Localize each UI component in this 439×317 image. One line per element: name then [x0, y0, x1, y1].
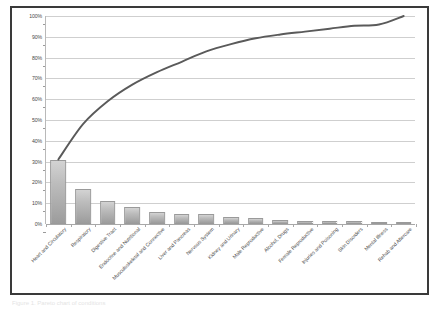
bar[interactable] [100, 201, 116, 224]
y-axis-tick-label: 10% [32, 200, 42, 206]
bar-slot [317, 16, 342, 224]
bar-slot [219, 16, 244, 224]
bar-slot [145, 16, 170, 224]
bar[interactable] [50, 160, 66, 224]
y-axis-tick-label: 100% [29, 13, 42, 19]
x-axis-category-label: Musculoskeletal and Connective [111, 226, 166, 281]
chart-frame: 100%90%80%70%60%50%40%30%20%10%0% Heart … [10, 6, 429, 295]
bar[interactable] [174, 214, 190, 224]
bars-layer [46, 16, 415, 224]
y-axis-tick-label: 50% [32, 117, 42, 123]
bar-slot [95, 16, 120, 224]
bar-slot [71, 16, 96, 224]
x-axis-category-label: Respiratory [69, 226, 91, 248]
y-axis-tick-label: 70% [32, 75, 42, 81]
y-axis-tick-label: 30% [32, 159, 42, 165]
y-axis-tick-label: 60% [32, 96, 42, 102]
x-axis-category-label: Heart and Circulatory [30, 226, 68, 264]
bar-slot [367, 16, 392, 224]
y-axis-tick-label: 40% [32, 138, 42, 144]
bar[interactable] [198, 214, 214, 224]
figure-caption: Figure 1. Pareto chart of conditions [12, 300, 312, 314]
bar-slot [120, 16, 145, 224]
bar-slot [342, 16, 367, 224]
plot-area [45, 16, 415, 224]
y-axis-tick-label: 0% [35, 221, 42, 227]
y-axis-tick-label: 20% [32, 179, 42, 185]
y-axis: 100%90%80%70%60%50%40%30%20%10%0% [12, 16, 42, 224]
bar-slot [293, 16, 318, 224]
y-axis-tick-label: 90% [32, 34, 42, 40]
x-axis-category-label: Skin Disorders [337, 226, 364, 253]
bar[interactable] [75, 189, 91, 224]
bar[interactable] [124, 207, 140, 224]
bar[interactable] [149, 212, 165, 224]
bar-slot [194, 16, 219, 224]
bar-slot [46, 16, 71, 224]
x-axis-tick-mark [416, 224, 417, 227]
bar[interactable] [223, 217, 239, 224]
bar-slot [243, 16, 268, 224]
x-axis-category-label: Endocrine and Nutritional [98, 226, 142, 270]
pareto-chart-figure: 100%90%80%70%60%50%40%30%20%10%0% Heart … [0, 0, 439, 317]
x-axis-category-label: Mental Illness [363, 226, 389, 252]
bar-slot [169, 16, 194, 224]
bar-slot [268, 16, 293, 224]
bar-slot [391, 16, 416, 224]
y-axis-tick-label: 80% [32, 55, 42, 61]
x-axis-labels: Heart and CirculatoryRespiratoryDigestiv… [45, 224, 415, 294]
